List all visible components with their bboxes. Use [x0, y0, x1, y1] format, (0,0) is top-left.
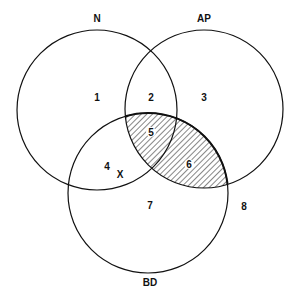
region-label-6: 6: [186, 159, 192, 170]
set-label-bd: BD: [143, 277, 157, 288]
region-label-8: 8: [241, 201, 247, 212]
venn-svg: NAPBD12345678X: [0, 0, 294, 298]
set-label-n: N: [93, 13, 100, 24]
region-label-2: 2: [148, 92, 154, 103]
region-label-4: 4: [104, 161, 110, 172]
set-label-ap: AP: [197, 13, 211, 24]
marker-x: X: [117, 169, 124, 180]
region-label-7: 7: [147, 200, 153, 211]
region-label-3: 3: [201, 92, 207, 103]
region-label-1: 1: [94, 92, 100, 103]
venn-diagram: NAPBD12345678X: [0, 0, 294, 298]
region-label-5: 5: [148, 127, 154, 138]
